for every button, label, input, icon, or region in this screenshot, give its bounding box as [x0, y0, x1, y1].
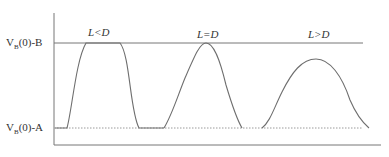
label-vb0-b: VB(0)-B — [6, 36, 42, 51]
curve-l-greater-d — [262, 59, 369, 128]
case-label-l-greater-d: L>D — [308, 28, 329, 40]
case-label-l-equal-d: L=D — [197, 28, 218, 40]
curve-l-equal-d — [164, 43, 242, 128]
label-vb0-a: VB(0)-A — [6, 121, 43, 136]
diagram-canvas — [0, 0, 389, 157]
curve-l-less-d — [55, 43, 164, 128]
case-label-l-less-d: L<D — [88, 26, 109, 38]
